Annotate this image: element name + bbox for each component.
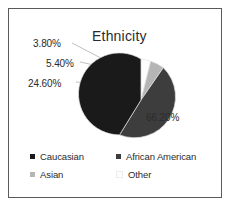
legend-item-other: Other xyxy=(116,169,208,180)
pie-slices xyxy=(78,53,175,138)
pie-chart: Ethnicity 3.80% 5.40% 24.60% xyxy=(0,0,232,209)
legend-item-asian: Asian xyxy=(30,169,116,180)
legend-item-caucasian: Caucasian xyxy=(30,151,116,162)
data-label-asian: 5.40% xyxy=(46,58,74,69)
data-label-caucasian: 66.20% xyxy=(146,112,179,123)
data-label-other: 3.80% xyxy=(33,38,61,49)
legend-swatch-icon-caucasian xyxy=(30,154,35,159)
legend-item-african-american: African American xyxy=(116,151,208,162)
chart-page: Ethnicity 3.80% 5.40% 24.60% xyxy=(0,0,232,209)
chart-legend: Caucasian African American Asian Other xyxy=(30,147,208,183)
data-label-african-american: 24.60% xyxy=(28,78,61,89)
legend-swatch-icon-asian xyxy=(30,172,35,177)
legend-label-asian: Asian xyxy=(40,169,63,180)
legend-swatch-icon-other xyxy=(116,171,123,178)
legend-label-african-american: African American xyxy=(126,151,196,162)
legend-label-other: Other xyxy=(128,169,151,180)
legend-label-caucasian: Caucasian xyxy=(40,151,84,162)
legend-swatch-icon-african-american xyxy=(116,154,121,159)
